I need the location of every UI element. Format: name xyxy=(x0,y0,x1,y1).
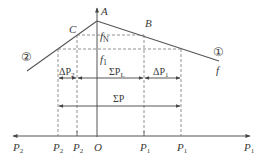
point-a-label: A xyxy=(100,5,108,17)
point-c-label: C xyxy=(69,23,77,35)
curve-1-label: ① xyxy=(213,45,224,59)
axis-label-origin: O xyxy=(94,141,102,153)
axis-label-right-end: P1 xyxy=(243,141,255,155)
point-b-label: B xyxy=(145,17,152,29)
characteristic-line-2 xyxy=(27,21,97,71)
axis-label-left-end: P2 xyxy=(12,141,24,155)
axis-label-p1: P1 xyxy=(139,141,151,155)
characteristic-line-1 xyxy=(97,21,219,61)
axis-label-p1-prime: P1 xyxy=(176,141,188,155)
fN-label: fN xyxy=(100,30,109,44)
delta-p1-label: ΔP1 xyxy=(153,66,169,79)
curve-f-label: f xyxy=(216,64,221,76)
axis-label-p2: P2 xyxy=(72,141,84,155)
diagram-canvas: A C B ② ① f fN f1 ΔP2 ΣPL ΔP1 ΣP P2 P2 P… xyxy=(0,0,265,162)
f1-label: f1 xyxy=(100,53,107,67)
curve-2-label: ② xyxy=(21,50,32,64)
axis-label-p2-prime: P2 xyxy=(52,141,64,155)
delta-p2-label: ΔP2 xyxy=(59,66,75,79)
sum-pl-label: ΣPL xyxy=(109,66,125,79)
sum-p-label: ΣP xyxy=(113,93,125,104)
